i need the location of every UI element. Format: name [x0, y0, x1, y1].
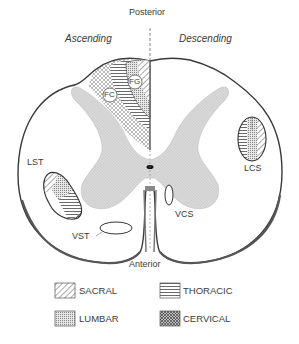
vst-tract — [100, 222, 132, 234]
label-fc: FC — [104, 91, 115, 99]
vcs-tract — [165, 185, 173, 205]
label-lcs: LCS — [244, 164, 262, 173]
legend-label-cervical: CERVICAL — [183, 314, 230, 324]
label-posterior: Posterior — [129, 8, 165, 17]
legend-label-sacral: SACRAL — [79, 286, 117, 296]
legend-swatch-cervical — [160, 311, 180, 326]
legend-swatch-sacral — [55, 283, 75, 298]
label-ascending: Ascending — [65, 34, 112, 44]
label-anterior: Anterior — [129, 260, 161, 269]
legend-label-lumbar: LUMBAR — [79, 314, 119, 324]
spinal-cord-diagram: Posterior Ascending Descending FG FC LST… — [0, 0, 299, 344]
label-vcs: VCS — [175, 210, 194, 219]
label-fg: FG — [129, 78, 140, 86]
legend-label-thoracic: THORACIC — [183, 286, 233, 296]
label-descending: Descending — [179, 34, 232, 44]
legend-swatch-thoracic — [160, 283, 180, 298]
label-lst: LST — [27, 158, 44, 167]
label-vst: VST — [72, 232, 90, 241]
legend-swatch-lumbar — [55, 311, 75, 326]
